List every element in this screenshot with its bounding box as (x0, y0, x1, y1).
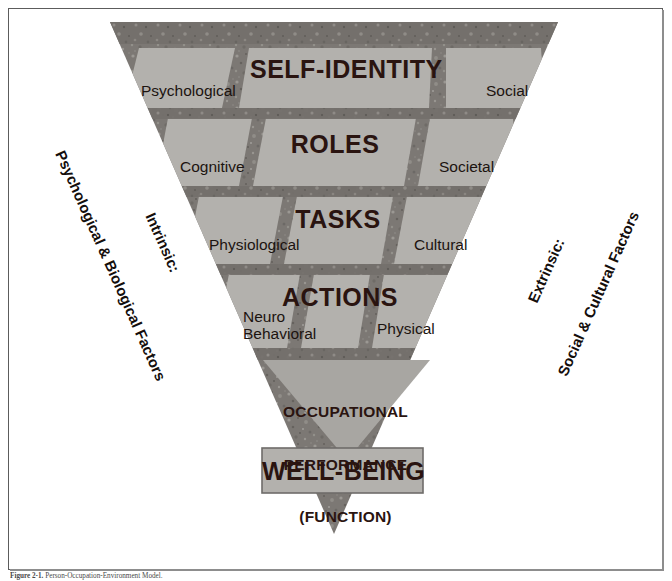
tier-title-roles: ROLES (275, 130, 395, 159)
op-line-3: (FUNCTION) (258, 508, 433, 526)
cell-label-social: Social (486, 82, 528, 100)
figure-caption-number: Figure 2-1. (10, 572, 43, 580)
tier-title-self-identity: SELF-IDENTITY (250, 55, 440, 84)
cell-label-psychological: Psychological (141, 82, 236, 100)
well-being-label: WELL-BEING (262, 457, 423, 486)
figure-caption-text: Person-Occupation-Environment Model. (45, 572, 162, 580)
cell-label-societal: Societal (439, 158, 494, 176)
tier-title-tasks: TASKS (283, 205, 393, 234)
cell-label-physiological: Physiological (209, 236, 299, 254)
op-line-1: OCCUPATIONAL (258, 403, 433, 421)
occupational-performance-diagram: SELF-IDENTITY Psychological Social ROLES… (0, 0, 672, 581)
cell-label-cultural: Cultural (414, 236, 467, 254)
cell-label-cognitive: Cognitive (180, 158, 245, 176)
cell-label-physical: Physical (377, 320, 435, 338)
figure-caption: Figure 2-1. Person-Occupation-Environmen… (10, 572, 650, 581)
